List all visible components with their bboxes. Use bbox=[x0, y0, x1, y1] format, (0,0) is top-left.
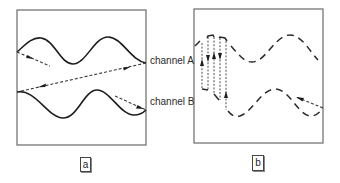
panel-b-end-arrow-icon bbox=[296, 97, 304, 102]
panel-b bbox=[194, 9, 323, 143]
panel-b-channel-a-trace bbox=[231, 35, 318, 62]
panel-a-retrace-arrow-icon bbox=[38, 84, 46, 88]
channel-b-label: channel B bbox=[150, 96, 194, 107]
panel-b-up-arrow-1-icon bbox=[200, 59, 204, 66]
channel-a-label: channel A bbox=[150, 55, 194, 66]
panel-a-retrace-arrow-right-icon bbox=[123, 67, 131, 71]
panel-b-down-arrow-2-icon bbox=[218, 53, 222, 60]
panel-b-up-arrow-2-icon bbox=[212, 52, 216, 59]
panel-b-up-arrow-3-icon bbox=[224, 91, 228, 98]
panel-b-channel-a-trace-start bbox=[195, 40, 201, 46]
panel-b-frame bbox=[194, 9, 323, 143]
panel-a-end-arrow-icon bbox=[136, 105, 144, 109]
panel-a bbox=[17, 10, 146, 145]
panel-a-channel-b-trace bbox=[17, 90, 146, 118]
panel-a-start-line bbox=[17, 52, 50, 66]
panel-b-channel-b-cap-1 bbox=[202, 89, 208, 90]
panel-b-down-arrow-1-icon bbox=[206, 55, 210, 62]
panel-a-start-arrow-icon bbox=[26, 55, 34, 59]
panel-b-tag: b bbox=[252, 155, 264, 171]
panel-a-tag: a bbox=[80, 157, 91, 172]
diagram-canvas bbox=[0, 0, 340, 183]
panel-b-channel-b-cap-2 bbox=[214, 94, 219, 100]
